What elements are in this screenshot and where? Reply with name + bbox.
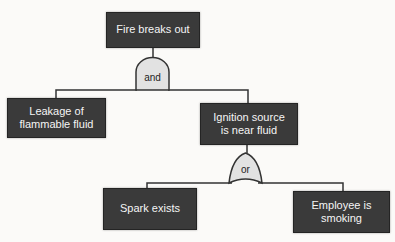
node-employee-is-smoking: Employee is smoking [293,191,390,233]
edge-and-gate-to-ignition [168,90,248,103]
and-gate: and [134,56,171,92]
edge-or-gate-to-employee [258,183,343,191]
and-gate-label: and [144,73,161,83]
or-gate: or [227,151,264,185]
node-leakage-of-flammable-fluid: Leakage of flammable fluid [7,98,106,138]
fault-tree-diagram: Fire breaks out and Leakage of flammable… [0,0,395,242]
node-fire-breaks-out: Fire breaks out [106,12,200,48]
edge-and-gate-to-leakage [56,90,137,98]
node-spark-exists: Spark exists [103,188,197,230]
node-ignition-source-is-near-fluid: Ignition source is near fluid [200,103,298,145]
or-gate-label: or [241,165,250,175]
